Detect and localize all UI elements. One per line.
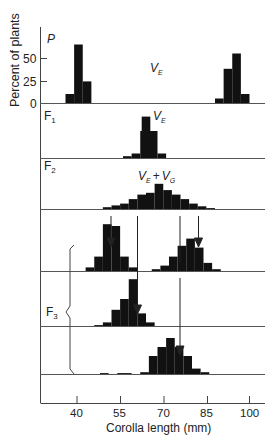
- histogram-bar: [66, 94, 75, 103]
- histogram-bar: [232, 54, 241, 104]
- x-tick-70: 70: [157, 407, 170, 419]
- y-tick-50: 50: [23, 52, 37, 66]
- annotation-ve-plus-vg-f2: VE+VG: [138, 169, 176, 184]
- histogram-bar: [103, 207, 112, 209]
- histogram-bar: [198, 206, 207, 209]
- annotation-ve-parents: VE: [150, 61, 163, 76]
- histogram-bar: [166, 338, 175, 374]
- histogram-bar: [142, 117, 151, 158]
- x-ticks: [77, 396, 250, 403]
- histogram-bar: [183, 356, 192, 374]
- histogram-bar: [94, 257, 103, 271]
- histogram-bar: [172, 195, 181, 209]
- histogram-bar: [178, 246, 187, 271]
- histogram-bar: [186, 239, 195, 271]
- selection-arrows: [107, 216, 203, 355]
- histogram-bar: [140, 372, 149, 374]
- histogram-bar: [192, 369, 201, 374]
- histogram-bar: [212, 269, 221, 271]
- histogram-bar: [215, 99, 224, 104]
- y-tick-25: 25: [23, 75, 37, 89]
- histogram-bar: [120, 204, 129, 209]
- histogram-bar: [103, 322, 112, 326]
- annotation-ve-f1: VE: [153, 109, 166, 124]
- histogram-bar: [152, 269, 161, 271]
- histogram-bar: [158, 347, 167, 374]
- panel-label-f1: F1: [44, 109, 56, 125]
- histogram-bar: [129, 267, 138, 271]
- histogram-bar: [86, 267, 95, 271]
- y-ticks: 50 25 0: [23, 52, 47, 111]
- panel-label-f2: F2: [44, 159, 56, 175]
- f3-brace: [66, 245, 74, 374]
- histogram-bar: [206, 208, 215, 209]
- histogram-bar: [146, 193, 155, 209]
- histogram-bar: [83, 81, 92, 103]
- histogram-bar: [100, 373, 109, 374]
- histogram-bar: [155, 184, 164, 209]
- histogram-bar: [103, 224, 112, 271]
- histogram-bar: [112, 310, 121, 326]
- x-tick-40: 40: [70, 407, 83, 419]
- corolla-length-histogram-chart: Percent of plants 50 25 0 P F1 F2 F3 VE: [0, 0, 279, 448]
- x-axis-label: Corolla length (mm): [106, 421, 211, 435]
- histogram-bar: [204, 263, 213, 271]
- histogram-bar: [224, 69, 233, 103]
- histogram-bar: [137, 313, 146, 326]
- histogram-bar: [129, 199, 138, 209]
- panel-label-f3: F3: [46, 305, 58, 321]
- histogram-bar: [163, 190, 172, 209]
- histogram-bar: [94, 325, 103, 326]
- histogram-bar: [112, 226, 121, 271]
- histogram-bar: [112, 205, 121, 209]
- panel-label-p: P: [47, 32, 55, 46]
- histogram-bar: [181, 199, 190, 209]
- y-tick-0: 0: [30, 97, 37, 111]
- histogram-bar: [241, 94, 250, 103]
- histogram-bar: [120, 299, 129, 326]
- histogram-bar: [201, 372, 210, 374]
- x-tick-85: 85: [200, 407, 213, 419]
- histogram-bar: [169, 257, 178, 271]
- histogram-bar: [158, 154, 167, 159]
- histogram-bar: [123, 156, 132, 158]
- histogram-bar: [132, 154, 141, 159]
- x-tick-55: 55: [113, 407, 126, 419]
- histogram-bar: [189, 204, 198, 209]
- x-tick-100: 100: [240, 407, 259, 419]
- histogram-bar: [120, 257, 129, 271]
- histogram-bar: [195, 248, 204, 271]
- histogram-bar: [146, 322, 155, 326]
- histogram-bar: [129, 279, 138, 326]
- histogram-bar: [160, 266, 169, 271]
- histogram-bar: [74, 45, 83, 104]
- histogram-bar: [137, 195, 146, 209]
- y-axis-label: Percent of plants: [8, 13, 22, 107]
- histogram-bar: [149, 356, 158, 374]
- histogram-bar: [117, 373, 131, 374]
